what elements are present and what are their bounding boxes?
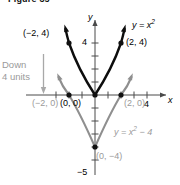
shift-note-line1: Down xyxy=(2,59,30,71)
shift-note: Down 4 units xyxy=(2,59,30,82)
point-label-0-0: (0, 0) xyxy=(60,99,81,108)
point-label-neg2-0: (−2, 0) xyxy=(32,99,58,108)
point-label-neg2-4: (−2, 4) xyxy=(23,29,49,38)
point-label-2-0: (2, 0) xyxy=(124,99,145,108)
point-label-2-4: (2, 4) xyxy=(126,38,147,47)
equation-label-parent: y = x2 xyxy=(132,19,155,30)
equation-label-shifted: y = x2 − 4 xyxy=(114,126,152,137)
y-tick-label-neg5: −5 xyxy=(77,168,87,177)
y-tick-label-4: 4 xyxy=(82,38,87,47)
x-axis-label: x xyxy=(168,96,173,105)
y-axis-label: y xyxy=(88,13,93,22)
shift-arrow-icon xyxy=(41,54,46,94)
shift-note-line2: 4 units xyxy=(2,71,30,83)
figure-container: Figure 35 xyxy=(0,0,180,185)
point-label-0-neg4: (0, −4) xyxy=(96,152,122,161)
